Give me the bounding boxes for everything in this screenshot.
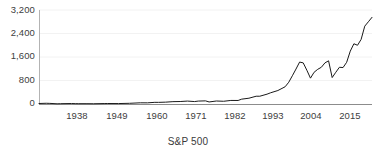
x-tick-label: 1971 xyxy=(176,110,216,121)
x-tick-label: 1982 xyxy=(215,110,255,121)
plot-area xyxy=(0,0,376,154)
x-tick-label: 1949 xyxy=(97,110,137,121)
x-tick-label: 2015 xyxy=(330,110,370,121)
x-tick-label: 1993 xyxy=(253,110,293,121)
x-axis-tick-labels: 1938 1949 1960 1971 1982 1993 2004 2015 xyxy=(0,110,376,124)
x-tick-label: 1938 xyxy=(57,110,97,121)
x-tick-label: 1960 xyxy=(137,110,177,121)
data-line-sp500 xyxy=(39,17,372,103)
gridlines xyxy=(39,10,372,81)
x-tick-label: 2004 xyxy=(291,110,331,121)
chart-title: S&P 500 xyxy=(0,136,376,148)
sp500-line-chart: 3,200 2,400 1,600 800 0 1938 1949 1960 1… xyxy=(0,0,376,154)
